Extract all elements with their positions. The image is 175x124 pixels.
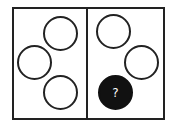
panel-divider <box>86 7 88 118</box>
right-circle-unknown[interactable]: ? <box>98 75 133 110</box>
left-circle-top <box>43 16 78 51</box>
left-circle-middle <box>17 45 52 80</box>
left-circle-bottom <box>43 75 78 110</box>
right-circle-top <box>96 14 131 49</box>
question-mark-icon: ? <box>112 86 118 100</box>
right-circle-middle <box>124 45 159 80</box>
